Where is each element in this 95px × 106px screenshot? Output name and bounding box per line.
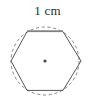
geometry-canvas — [0, 0, 95, 106]
geometry-figure: 1 cm — [0, 0, 95, 106]
center-dot — [43, 59, 46, 62]
